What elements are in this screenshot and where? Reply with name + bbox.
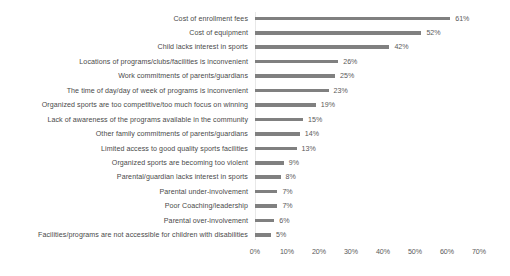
bar-category-label: Organized sports are becoming too violen… [112,156,248,170]
bar-value-label: 13% [302,142,316,156]
bar-row: Parental over-involvement6% [0,214,510,228]
bar [255,31,421,35]
bar [255,204,277,208]
bar-track: 8% [255,170,479,184]
bar-value-label: 19% [321,98,335,112]
bar [255,219,274,223]
bar [255,17,450,21]
bar-value-label: 9% [289,156,299,170]
bar-value-label: 5% [276,228,286,242]
bar-category-label: Poor Coaching/leadership [165,199,248,213]
x-axis-tick-label: 70% [459,245,499,259]
bar-category-label: Facilities/programs are not accessible f… [38,228,248,242]
bar-category-label: Limited access to good quality sports fa… [101,142,248,156]
bar-value-label: 42% [394,40,408,54]
bar [255,60,338,64]
bar-track: 13% [255,142,479,156]
bar-category-label: Parental under-involvement [159,185,248,199]
x-axis-tick-labels: 0%10%20%30%40%50%60%70% [0,245,510,259]
bar [255,161,284,165]
bar-track: 7% [255,199,479,213]
bar-row: Locations of programs/clubs/facilities i… [0,55,510,69]
bar-value-label: 7% [282,199,292,213]
bar-value-label: 26% [343,55,357,69]
bar [255,132,300,136]
bar-category-label: Cost of equipment [189,26,248,40]
bar-category-label: Child lacks interest in sports [158,40,248,54]
bar-row: Facilities/programs are not accessible f… [0,228,510,242]
bar-row: Other family commitments of parents/guar… [0,127,510,141]
bar-value-label: 23% [334,84,348,98]
bar-value-label: 7% [282,185,292,199]
bar-category-label: Lack of awareness of the programs availa… [47,113,248,127]
bar-value-label: 8% [286,170,296,184]
bar [255,147,297,151]
bar-category-label: Work commitments of parents/guardians [118,69,248,83]
bar-track: 42% [255,40,479,54]
bar-track: 19% [255,98,479,112]
bar-track: 5% [255,228,479,242]
bar-category-label: The time of day/day of week of programs … [67,84,248,98]
bar-track: 52% [255,26,479,40]
bar-track: 15% [255,113,479,127]
bar [255,190,277,194]
bar [255,74,335,78]
bar-row: Organized sports are becoming too violen… [0,156,510,170]
bar-value-label: 61% [455,12,469,26]
bar-row: Lack of awareness of the programs availa… [0,113,510,127]
bar [255,118,303,122]
bar-track: 23% [255,84,479,98]
bar-row: Child lacks interest in sports42% [0,40,510,54]
bar-row: Poor Coaching/leadership7% [0,199,510,213]
horizontal-bar-chart: Cost of enrollment fees61%Cost of equipm… [0,0,510,276]
bar-row: The time of day/day of week of programs … [0,84,510,98]
bar-value-label: 25% [340,69,354,83]
bar [255,89,329,93]
bar-row: Parental under-involvement7% [0,185,510,199]
bar-category-label: Other family commitments of parents/guar… [96,127,248,141]
bar-row: Cost of enrollment fees61% [0,12,510,26]
bar-track: 7% [255,185,479,199]
bar-category-label: Organized sports are too competitive/too… [42,98,248,112]
bar-category-label: Locations of programs/clubs/facilities i… [79,55,248,69]
bar [255,175,281,179]
bar-track: 26% [255,55,479,69]
bar-row: Cost of equipment52% [0,26,510,40]
bar [255,45,389,49]
bar-track: 6% [255,214,479,228]
bar-category-label: Parental/guardian lacks interest in spor… [117,170,248,184]
bar-row: Parental/guardian lacks interest in spor… [0,170,510,184]
bar [255,233,271,237]
bar-value-label: 52% [426,26,440,40]
bar [255,103,316,107]
bar-row: Limited access to good quality sports fa… [0,142,510,156]
bar-category-label: Parental over-involvement [164,214,248,228]
bar-track: 61% [255,12,479,26]
bar-value-label: 14% [305,127,319,141]
bar-track: 9% [255,156,479,170]
bar-track: 25% [255,69,479,83]
bar-category-label: Cost of enrollment fees [173,12,248,26]
bar-value-label: 15% [308,113,322,127]
bar-track: 14% [255,127,479,141]
bar-row: Work commitments of parents/guardians25% [0,69,510,83]
bar-row: Organized sports are too competitive/too… [0,98,510,112]
bar-value-label: 6% [279,214,289,228]
